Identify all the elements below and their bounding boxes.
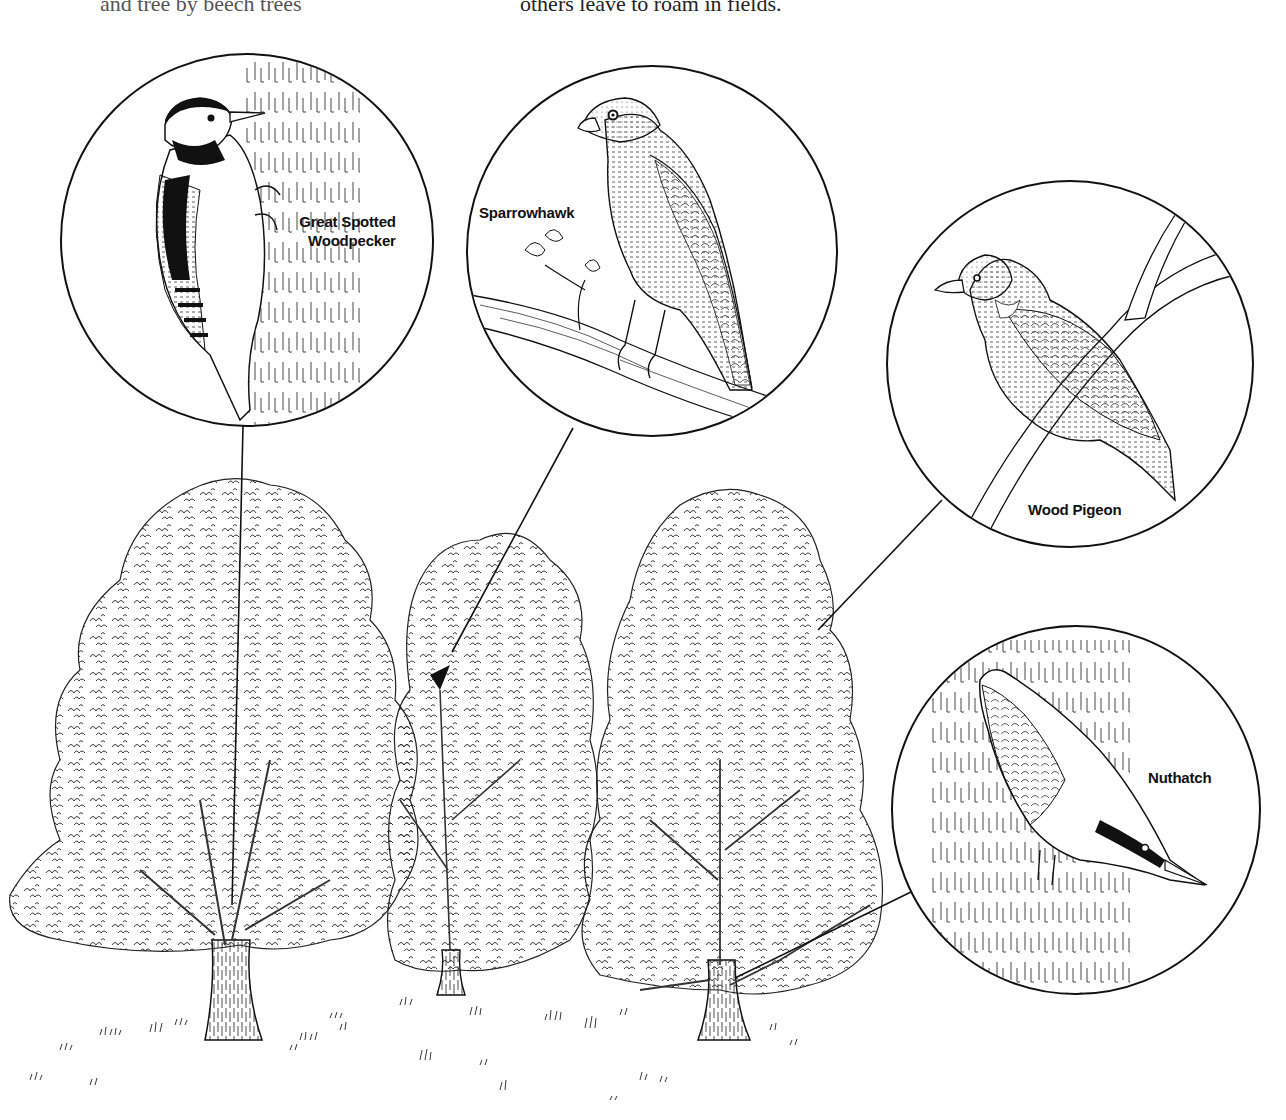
callout-pigeon	[887, 181, 1253, 547]
label-line-1: Great Spotted	[296, 212, 396, 231]
tree-middle	[388, 533, 598, 995]
label-great-spotted-woodpecker: Great Spotted Woodpecker	[296, 212, 396, 250]
callout-woodpecker	[61, 40, 433, 460]
callout-sparrowhawk	[467, 66, 837, 436]
label-sparrowhawk: Sparrowhawk	[479, 203, 574, 222]
label-line-2: Woodpecker	[296, 231, 396, 250]
tree-right	[582, 489, 883, 1040]
ground-grass	[30, 997, 797, 1100]
callout-nuthatch	[892, 626, 1260, 1000]
label-nuthatch: Nuthatch	[1148, 768, 1211, 787]
tree-left	[10, 479, 418, 1040]
label-wood-pigeon: Wood Pigeon	[1028, 500, 1121, 519]
woodland-illustration	[0, 0, 1286, 1120]
leader-line-pigeon	[818, 500, 942, 630]
